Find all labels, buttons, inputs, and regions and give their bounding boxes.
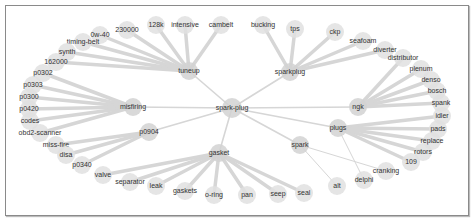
edge-spark-plug-p0904	[149, 108, 232, 132]
node-label: pan	[241, 191, 253, 199]
node-label: idler	[435, 112, 449, 119]
node-label: bucking	[251, 21, 275, 29]
edge-spark-plug-plugs	[232, 108, 338, 128]
node-ngk[interactable]: ngk	[349, 98, 367, 116]
node-tps[interactable]: tps	[286, 20, 304, 38]
node-valve[interactable]: valve	[94, 166, 112, 184]
node-label: intensive	[171, 21, 199, 28]
node-109[interactable]: 109	[402, 153, 420, 171]
node-label: ckp	[330, 28, 341, 36]
node-seep[interactable]: seep	[269, 185, 287, 203]
node-delphi[interactable]: delphi	[355, 171, 374, 189]
node-label: seafoam	[350, 37, 377, 44]
node-alt[interactable]: alt	[328, 177, 346, 195]
node-p0904[interactable]: p0904	[139, 123, 159, 141]
node-spark[interactable]: spark	[291, 136, 309, 154]
node-label: seep	[270, 190, 285, 198]
node-label: tps	[290, 25, 300, 33]
node-leak[interactable]: leak	[147, 177, 165, 195]
node-label: tuneup	[178, 67, 200, 75]
node-label: distributor	[388, 54, 419, 61]
node-bucking[interactable]: bucking	[251, 16, 275, 34]
node-label: gasket	[209, 149, 230, 157]
node-cambelt[interactable]: cambelt	[209, 16, 234, 34]
node-label: 0w-40	[90, 31, 109, 38]
node-label: diverter	[373, 46, 397, 53]
node-label: leak	[150, 182, 163, 189]
node-label: valve	[95, 171, 111, 178]
edge-spark-plug-ngk	[232, 107, 358, 108]
node-label: 128k	[148, 21, 164, 28]
node-label: spark-plug	[216, 104, 249, 112]
node-128k[interactable]: 128k	[147, 16, 165, 34]
node-gaskets[interactable]: gaskets	[173, 182, 198, 200]
node-label: misfiring	[120, 103, 146, 111]
node-label: bosch	[428, 87, 447, 94]
node-plugs[interactable]: plugs	[329, 119, 347, 137]
node-label: pads	[430, 125, 446, 133]
node-label: 230000	[115, 26, 138, 33]
node-label: o-ring	[205, 191, 223, 199]
node-label: gaskets	[173, 187, 198, 195]
edge-plugs-idler	[338, 116, 442, 128]
node-intensive[interactable]: intensive	[171, 16, 199, 34]
node-pan[interactable]: pan	[238, 186, 256, 204]
node-label: p0300	[19, 93, 39, 101]
node-label: p0302	[33, 69, 53, 77]
node-label: codes	[21, 117, 40, 124]
node-seal[interactable]: seal	[295, 184, 313, 202]
node-label: cranking	[373, 167, 400, 175]
node-label: rotors	[414, 148, 432, 155]
node-label: 109	[405, 158, 417, 165]
node-misfiring[interactable]: misfiring	[120, 98, 146, 116]
node-label: disa	[60, 151, 73, 158]
node-label: spank	[432, 99, 451, 107]
node-label: denso	[421, 76, 440, 83]
node-label: obd2-scanner	[19, 129, 62, 136]
node-ckp[interactable]: ckp	[326, 23, 344, 41]
node-label: sparkplug	[275, 68, 305, 76]
node-label: 162000	[44, 58, 67, 65]
node-cranking[interactable]: cranking	[373, 162, 400, 180]
node-p0340[interactable]: p0340	[72, 156, 92, 174]
node-label: delphi	[355, 176, 374, 184]
node-label: ngk	[352, 103, 364, 111]
node-label: separator	[115, 178, 145, 186]
node-label: seal	[298, 189, 311, 196]
node-label: p0420	[19, 105, 39, 113]
node-label: spark	[291, 141, 309, 149]
network-graph: spark-plugtuneupsparkplugmisfiringp0904n…	[0, 0, 474, 220]
node-label: plugs	[330, 124, 347, 132]
node-label: p0340	[72, 161, 92, 169]
node-o-ring[interactable]: o-ring	[205, 186, 223, 204]
node-label: cambelt	[209, 21, 234, 28]
node-label: alt	[333, 182, 340, 189]
node-label: p0303	[23, 81, 43, 89]
node-label: p0904	[139, 128, 159, 136]
edge-spark-plug-sparkplug	[232, 72, 290, 108]
edge-spark-plug-spark	[232, 108, 300, 145]
node-separator[interactable]: separator	[115, 173, 145, 191]
